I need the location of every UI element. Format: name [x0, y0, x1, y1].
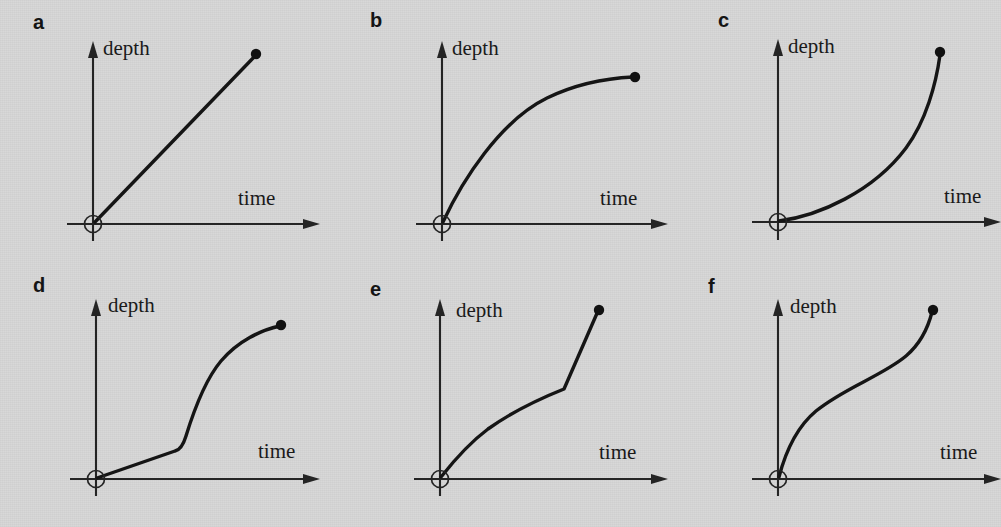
- data-curve-d: [97, 326, 280, 478]
- y-axis-arrowhead-b: [437, 41, 447, 58]
- panel-b: b depth time: [334, 0, 668, 263]
- plot-area-f: [668, 264, 1001, 527]
- data-curve-a: [95, 55, 256, 222]
- y-axis-arrowhead-a: [88, 41, 98, 58]
- panel-c: c depth time: [668, 0, 1001, 263]
- y-axis-arrowhead-f: [773, 299, 783, 316]
- endpoint-dot-f: [928, 305, 938, 315]
- endpoint-dot-a: [251, 49, 261, 59]
- data-curve-b: [443, 77, 633, 222]
- plot-area-e: [334, 264, 668, 527]
- x-axis-arrowhead-e: [651, 474, 668, 484]
- x-axis-arrowhead-a: [303, 219, 320, 229]
- data-curve-e: [441, 311, 598, 477]
- y-axis-arrowhead-d: [91, 299, 101, 316]
- figure-root: a depth time b depth time c depth: [0, 0, 1001, 527]
- panel-a: a depth time: [0, 0, 334, 263]
- x-axis-arrowhead-d: [303, 474, 320, 484]
- plot-area-d: [0, 264, 334, 527]
- data-curve-f: [779, 312, 932, 477]
- panel-f: f depth time: [668, 264, 1001, 527]
- panel-d: d depth time: [0, 264, 334, 527]
- data-curve-c: [779, 55, 940, 221]
- plot-area-b: [334, 0, 668, 263]
- x-axis-arrowhead-c: [984, 217, 1001, 227]
- x-axis-arrowhead-f: [984, 474, 1001, 484]
- x-axis-arrowhead-b: [651, 219, 668, 229]
- panel-e: e depth time: [334, 264, 668, 527]
- plot-area-c: [668, 0, 1001, 263]
- y-axis-arrowhead-e: [435, 299, 445, 316]
- y-axis-arrowhead-c: [773, 39, 783, 56]
- plot-area-a: [0, 0, 334, 263]
- endpoint-dot-d: [276, 320, 286, 330]
- endpoint-dot-c: [935, 47, 945, 57]
- endpoint-dot-e: [594, 305, 604, 315]
- endpoint-dot-b: [630, 72, 640, 82]
